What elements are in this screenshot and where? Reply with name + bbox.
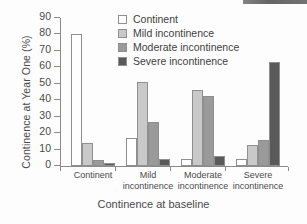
y-tick: 70 bbox=[54, 50, 60, 51]
bar bbox=[93, 160, 104, 166]
y-tick: 40 bbox=[54, 99, 60, 100]
chart-figure: Continence at Year One (%) 0102030405060… bbox=[0, 0, 307, 224]
legend-label: Mild incontinence bbox=[133, 27, 214, 39]
x-axis-label-line: Severe bbox=[221, 170, 295, 181]
y-tick: 10 bbox=[54, 149, 60, 150]
bar bbox=[236, 159, 247, 166]
legend-item[interactable]: Continent bbox=[118, 12, 239, 26]
bar bbox=[159, 159, 170, 166]
y-tick-label: 10 bbox=[39, 142, 51, 154]
legend-swatch-icon bbox=[118, 15, 127, 24]
x-axis-label: Severeincontinence bbox=[221, 170, 295, 191]
y-tick: 60 bbox=[54, 66, 60, 67]
y-tick-label: 70 bbox=[39, 43, 51, 55]
bar bbox=[126, 138, 137, 166]
bar bbox=[148, 122, 159, 166]
legend-swatch-icon bbox=[118, 57, 127, 66]
bar-group bbox=[71, 18, 115, 166]
legend-label: Moderate incontinence bbox=[133, 41, 239, 53]
bar bbox=[269, 62, 280, 166]
y-axis-title: Continence at Year One (%) bbox=[20, 17, 32, 187]
x-axis-line bbox=[60, 166, 288, 167]
bar bbox=[71, 34, 82, 166]
x-axis-title: Continence at baseline bbox=[0, 198, 307, 210]
bar bbox=[192, 90, 203, 166]
legend-item[interactable]: Severe incontinence bbox=[118, 54, 239, 68]
legend-swatch-icon bbox=[118, 43, 127, 52]
chart-legend: ContinentMild incontinenceModerate incon… bbox=[118, 12, 239, 68]
y-tick-label: 20 bbox=[39, 125, 51, 137]
y-axis-line bbox=[60, 18, 61, 167]
bar-group bbox=[236, 18, 280, 166]
y-tick-label: 30 bbox=[39, 109, 51, 121]
bar bbox=[82, 143, 93, 166]
bar bbox=[247, 145, 258, 166]
legend-item[interactable]: Mild incontinence bbox=[118, 26, 239, 40]
y-tick-label: 90 bbox=[39, 10, 51, 22]
scan-artifact bbox=[243, 0, 307, 4]
bar bbox=[258, 140, 269, 166]
legend-swatch-icon bbox=[118, 29, 127, 38]
y-tick-label: 80 bbox=[39, 26, 51, 38]
y-tick: 20 bbox=[54, 132, 60, 133]
bar bbox=[214, 156, 225, 166]
legend-item[interactable]: Moderate incontinence bbox=[118, 40, 239, 54]
bar bbox=[203, 96, 214, 166]
y-tick: 30 bbox=[54, 116, 60, 117]
y-tick: 0 bbox=[54, 165, 60, 166]
bar bbox=[137, 82, 148, 166]
bar bbox=[181, 159, 192, 166]
bar bbox=[104, 163, 115, 166]
y-tick: 80 bbox=[54, 33, 60, 34]
x-axis-label-line: incontinence bbox=[221, 181, 295, 192]
y-tick-label: 60 bbox=[39, 59, 51, 71]
legend-label: Continent bbox=[133, 13, 178, 25]
y-tick: 90 bbox=[54, 17, 60, 18]
y-tick: 50 bbox=[54, 83, 60, 84]
y-tick-label: 0 bbox=[45, 158, 51, 170]
y-tick-label: 50 bbox=[39, 76, 51, 88]
y-tick-label: 40 bbox=[39, 92, 51, 104]
legend-label: Severe incontinence bbox=[133, 55, 228, 67]
